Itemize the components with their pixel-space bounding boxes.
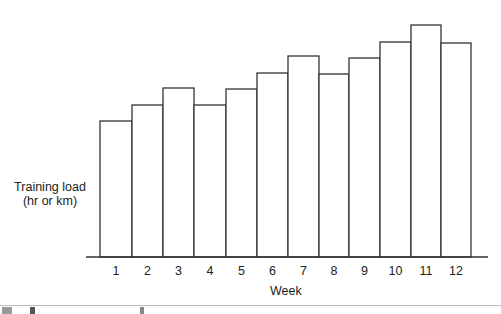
x-axis-label: Week — [270, 284, 302, 298]
cropped-caption-text — [0, 307, 501, 314]
bar-week-2 — [132, 105, 163, 257]
bar-week-6 — [257, 73, 288, 257]
bar-week-4 — [194, 105, 226, 257]
y-axis-label: Training load (hr or km) — [0, 180, 100, 208]
bar-week-8 — [319, 74, 349, 257]
x-tick-label: 12 — [449, 264, 463, 278]
x-tick-labels: 123456789101112 — [113, 264, 463, 278]
bar-week-3 — [163, 88, 194, 257]
bar-week-1 — [100, 121, 132, 257]
x-tick-label: 8 — [331, 264, 338, 278]
y-axis-label-line1: Training load — [0, 180, 100, 194]
x-tick-label: 3 — [175, 264, 182, 278]
bar-week-10 — [380, 42, 411, 257]
x-tick-label: 7 — [300, 264, 307, 278]
y-axis-label-line2: (hr or km) — [0, 194, 100, 208]
bar-chart: 123456789101112 — [0, 0, 501, 314]
bars-group — [100, 25, 471, 257]
caption-divider — [0, 305, 501, 306]
bar-week-12 — [441, 43, 471, 257]
x-tick-label: 10 — [389, 264, 403, 278]
x-tick-label: 5 — [238, 264, 245, 278]
x-tick-label: 6 — [269, 264, 276, 278]
bar-week-7 — [288, 56, 319, 257]
x-tick-label: 11 — [420, 264, 433, 278]
x-tick-label: 1 — [113, 264, 120, 278]
bar-week-11 — [411, 25, 441, 257]
bar-week-9 — [349, 58, 380, 257]
bar-week-5 — [226, 89, 257, 257]
x-tick-label: 4 — [207, 264, 214, 278]
x-tick-label: 9 — [361, 264, 368, 278]
x-tick-label: 2 — [144, 264, 151, 278]
